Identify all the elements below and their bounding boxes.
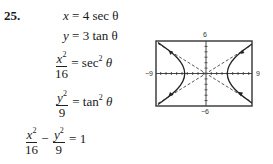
x-min-label: −9 bbox=[145, 70, 153, 77]
graph-canvas bbox=[0, 0, 273, 164]
hyperbola-graph: 6 −6 −9 9 bbox=[0, 0, 273, 164]
x-max-label: 9 bbox=[256, 70, 260, 77]
y-min-label: −6 bbox=[201, 108, 209, 115]
y-max-label: 6 bbox=[203, 31, 207, 38]
